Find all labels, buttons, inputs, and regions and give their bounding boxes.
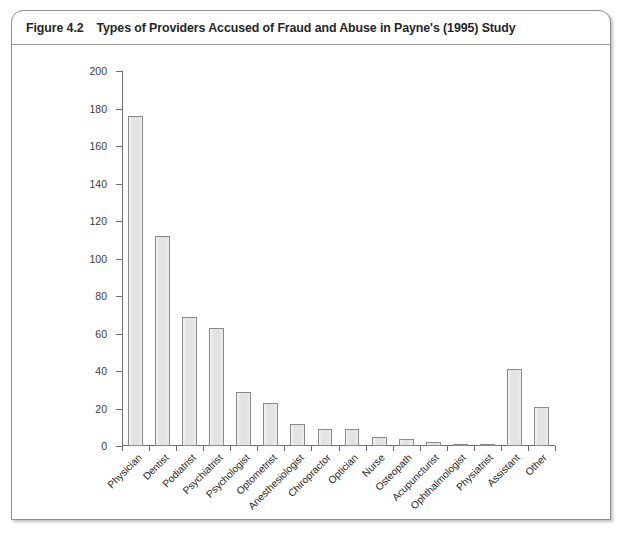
x-axis-tick: [339, 446, 340, 451]
x-axis-tick: [203, 446, 204, 451]
x-axis-tick: [501, 446, 502, 451]
x-axis-tick: [257, 446, 258, 451]
x-axis-tick: [176, 446, 177, 451]
y-axis-tick: [116, 71, 122, 72]
y-axis-tick: [116, 109, 122, 110]
x-axis-tick: [366, 446, 367, 451]
y-axis-tick-label: 200: [16, 71, 116, 72]
y-axis-tick-label: 40: [16, 371, 116, 372]
y-axis-tick-label: 120: [16, 221, 116, 222]
x-axis-tick: [311, 446, 312, 451]
x-axis-tick: [474, 446, 475, 451]
y-axis-tick-label: 20: [16, 408, 116, 409]
bar: [155, 236, 170, 446]
y-axis-tick-label: 140: [16, 183, 116, 184]
bar: [345, 429, 360, 446]
y-axis-tick-label: 80: [16, 296, 116, 297]
y-axis-tick: [116, 409, 122, 410]
x-axis-tick: [122, 446, 123, 451]
x-axis-tick: [149, 446, 150, 451]
bar: [507, 369, 522, 446]
y-axis-tick: [116, 221, 122, 222]
y-axis-tick-label: 0: [16, 446, 116, 447]
x-axis-tick: [393, 446, 394, 451]
bar-chart: 020406080100120140160180200 PhysicianDen…: [12, 45, 610, 519]
y-axis-tick-label: 60: [16, 333, 116, 334]
figure-title: Types of Providers Accused of Fraud and …: [97, 21, 516, 35]
bar: [236, 392, 251, 446]
bar: [534, 407, 549, 446]
x-axis-tick-label: Physician: [105, 452, 143, 490]
figure-number: Figure 4.2: [26, 21, 84, 35]
bar: [399, 439, 414, 447]
y-axis-tick-label: 100: [16, 258, 116, 259]
y-axis-tick: [116, 334, 122, 335]
bar: [290, 424, 305, 447]
x-axis-tick: [528, 446, 529, 451]
y-axis-line: [122, 71, 123, 446]
figure-card: Figure 4.2 Types of Providers Accused of…: [11, 10, 611, 520]
bar: [318, 429, 333, 446]
bar: [453, 444, 468, 446]
x-axis-tick: [284, 446, 285, 451]
y-axis-tick: [116, 371, 122, 372]
x-axis-tick-label: Other: [524, 452, 550, 478]
x-axis-tick: [230, 446, 231, 451]
y-axis-tick-label: 160: [16, 146, 116, 147]
figure-header: Figure 4.2 Types of Providers Accused of…: [12, 11, 610, 45]
x-axis-tick: [447, 446, 448, 451]
y-axis-tick: [116, 184, 122, 185]
y-axis-tick: [116, 296, 122, 297]
bar: [426, 442, 441, 446]
x-axis-tick: [420, 446, 421, 451]
y-axis-tick: [116, 146, 122, 147]
y-axis-tick: [116, 259, 122, 260]
chart-plot-region: 020406080100120140160180200 PhysicianDen…: [12, 45, 610, 519]
bar: [182, 317, 197, 446]
bar: [372, 437, 387, 446]
bar: [263, 403, 278, 446]
y-axis-tick-label: 180: [16, 108, 116, 109]
x-axis-tick: [555, 446, 556, 451]
bar: [480, 444, 495, 446]
bar: [209, 328, 224, 446]
bar: [128, 116, 143, 446]
